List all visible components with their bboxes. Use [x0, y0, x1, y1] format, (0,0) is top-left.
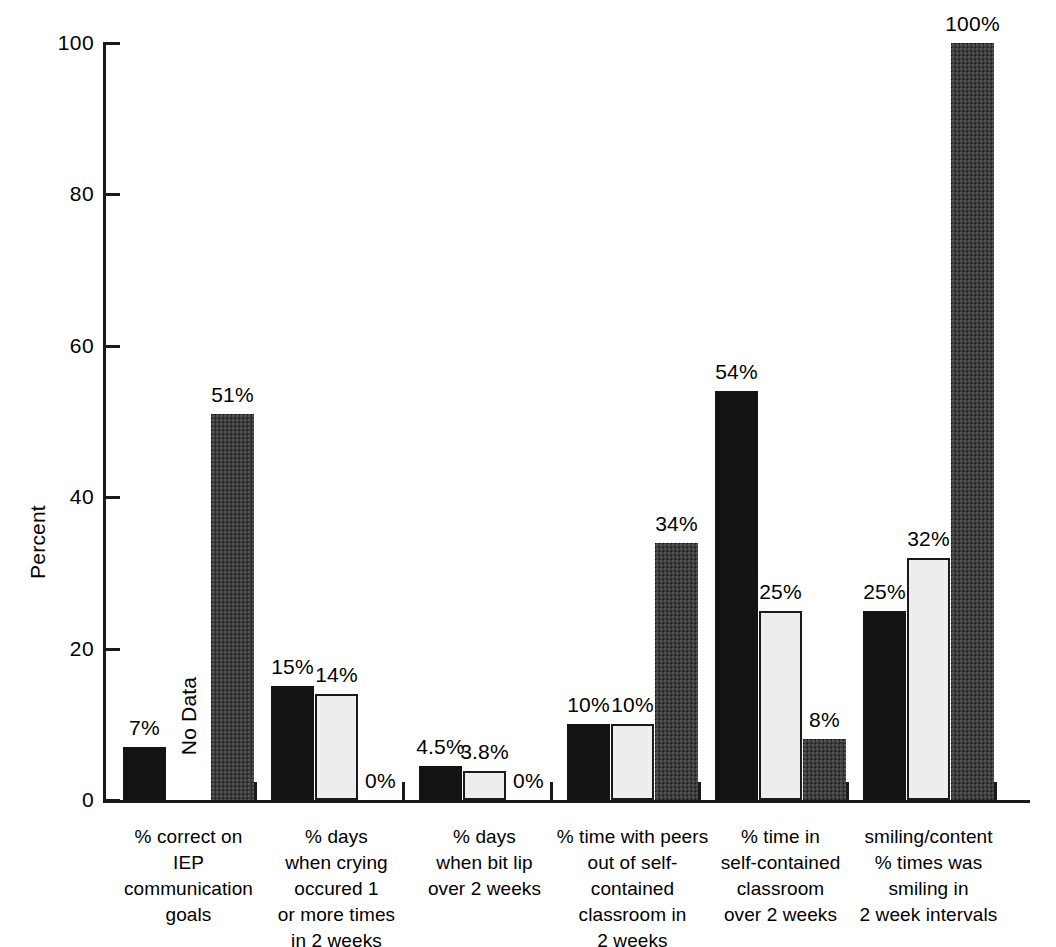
bar-value-label: 54% [715, 360, 758, 384]
y-axis-tick-label: 20 [32, 637, 94, 661]
bar-value-label: 100% [945, 12, 1000, 36]
y-axis-tick-label: 100 [32, 31, 94, 55]
bar [655, 543, 698, 800]
x-axis-line [103, 800, 1030, 803]
bar [419, 766, 462, 800]
x-axis-group-tick [550, 782, 553, 800]
bar-chart: Percent 100806040200 7%No Data51%15%14%0… [0, 0, 1056, 947]
x-axis-group-tick [402, 782, 405, 800]
x-axis-group-tick [254, 782, 257, 800]
bar-value-label: 51% [211, 383, 254, 407]
y-axis-line [103, 43, 106, 803]
bar [951, 43, 994, 800]
bar-value-label: 25% [863, 580, 906, 604]
bar [759, 611, 802, 800]
bar [611, 724, 654, 800]
bar [863, 611, 906, 800]
bar-value-label: 4.5% [416, 735, 465, 759]
bar [567, 724, 610, 800]
bar-value-label: 3.8% [460, 740, 509, 764]
bar-value-label: 0% [513, 769, 544, 793]
bar-value-label: 8% [809, 708, 840, 732]
bar-value-label: 10% [567, 693, 610, 717]
bar [211, 414, 254, 800]
y-axis-tick-label: 40 [32, 485, 94, 509]
bar-value-label: 34% [655, 512, 698, 536]
bar [315, 694, 358, 800]
bar [715, 391, 758, 800]
bar-value-label: 15% [271, 655, 314, 679]
bar [907, 558, 950, 800]
bar-value-label: No Data [177, 656, 201, 776]
x-axis-group-tick [698, 782, 701, 800]
bar-value-label: 14% [315, 663, 358, 687]
x-axis-category-label: smiling/content % times was smiling in 2… [824, 824, 1034, 928]
y-axis-tick-label: 0 [32, 788, 94, 812]
y-axis-tick-labels: 100806040200 [32, 0, 94, 947]
x-axis-group-tick [994, 782, 997, 800]
bar-value-label: 10% [611, 693, 654, 717]
bar [271, 686, 314, 800]
bar-value-label: 32% [907, 527, 950, 551]
bar-value-label: 0% [365, 769, 396, 793]
x-axis-group-tick [846, 782, 849, 800]
bar-value-label: 25% [759, 580, 802, 604]
bar-value-label: 7% [129, 716, 160, 740]
bar [803, 739, 846, 800]
bar [463, 771, 506, 800]
bar [123, 747, 166, 800]
y-axis-tick-label: 60 [32, 334, 94, 358]
y-axis-tick-label: 80 [32, 182, 94, 206]
